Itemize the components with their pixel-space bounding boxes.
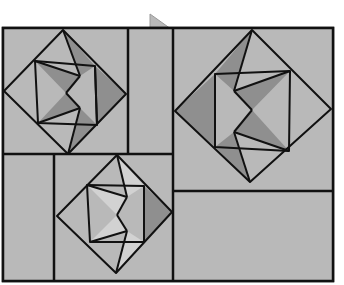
quilt-diagram	[0, 0, 344, 285]
bottom-left-strip	[3, 154, 54, 281]
bottom-right-panel	[173, 191, 333, 281]
top-middle-strip	[128, 28, 173, 154]
